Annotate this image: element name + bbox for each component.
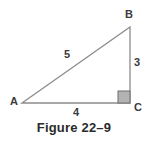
vertex-label-b: B bbox=[125, 9, 133, 20]
figure-caption: Figure 22–9 bbox=[0, 120, 148, 135]
vertex-label-c: C bbox=[134, 102, 142, 113]
right-angle-marker bbox=[118, 91, 130, 103]
vertex-label-a: A bbox=[10, 96, 18, 107]
figure-container: A B C 5 3 4 Figure 22–9 bbox=[0, 0, 148, 142]
side-length-label-hypotenuse: 5 bbox=[64, 49, 70, 60]
side-length-label-vertical-leg: 3 bbox=[134, 57, 140, 68]
side-length-label-base-leg: 4 bbox=[73, 107, 79, 118]
triangle-outline bbox=[22, 27, 130, 103]
